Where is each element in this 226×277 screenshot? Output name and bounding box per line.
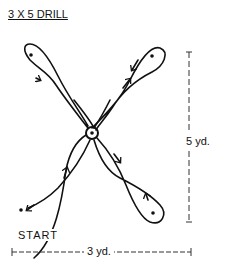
cone-top-left — [29, 53, 33, 57]
start-label: START — [18, 229, 58, 241]
cone-center — [90, 131, 94, 135]
cone-start — [19, 208, 23, 212]
path-center-to-top-right — [92, 48, 165, 130]
cone-top-right — [150, 54, 154, 58]
path-center-to-finish — [28, 140, 90, 208]
height-dimension-label: 5 yd. — [186, 133, 210, 149]
width-dimension-label: 3 yd. — [84, 245, 114, 257]
path-center-to-bottom-right — [94, 138, 164, 223]
cone-bottom-right — [151, 211, 155, 215]
path-center-to-top-left — [25, 44, 88, 128]
